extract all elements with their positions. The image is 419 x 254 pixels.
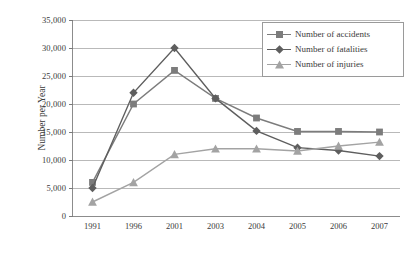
series-line <box>93 70 380 182</box>
x-axis-line <box>72 216 400 217</box>
x-axis-tick-label: 2007 <box>371 221 388 231</box>
legend-marker-square <box>267 29 291 41</box>
legend-label-injuries: Number of injuries <box>295 60 363 69</box>
legend-marker-diamond <box>267 44 291 56</box>
y-axis-tick-label: 30,000 <box>42 43 66 53</box>
y-axis-tick-mark <box>69 160 73 161</box>
legend-label-fatalities: Number of fatalities <box>295 45 367 54</box>
data-point-marker <box>294 128 301 135</box>
y-axis-tick-mark <box>69 188 73 189</box>
data-point-marker <box>376 129 383 136</box>
line-chart: 05,00010,00015,00020,00025,00030,00035,0… <box>0 0 419 254</box>
y-axis-line <box>72 20 73 216</box>
x-axis-tick-label: 2005 <box>289 221 306 231</box>
y-axis-tick-mark <box>69 216 73 217</box>
legend-label-accidents: Number of accidents <box>295 30 370 39</box>
y-axis-tick-label: 35,000 <box>42 15 66 25</box>
y-axis-tick-mark <box>69 48 73 49</box>
x-axis-tick-label: 2003 <box>207 221 224 231</box>
data-point-marker <box>171 67 178 74</box>
y-axis-title: Number per Year <box>37 58 47 178</box>
y-axis-tick-mark <box>69 20 73 21</box>
data-point-marker <box>335 128 342 135</box>
legend-item-accidents: Number of accidents <box>267 27 398 42</box>
x-axis-tick-label: 2006 <box>330 221 347 231</box>
chart-legend: Number of accidents Number of fatalities… <box>262 22 404 77</box>
data-point-marker <box>130 101 137 108</box>
legend-marker-triangle <box>267 59 291 71</box>
x-axis-tick-label: 2004 <box>248 221 265 231</box>
y-axis-tick-label: 5,000 <box>46 183 66 193</box>
x-axis-tick-label: 2001 <box>166 221 183 231</box>
y-axis-tick-mark <box>69 76 73 77</box>
data-point-marker <box>375 152 383 160</box>
x-axis-tick-label: 1996 <box>125 221 142 231</box>
y-axis-tick-mark <box>69 104 73 105</box>
y-axis-tick-label: 0 <box>62 211 66 221</box>
data-point-marker <box>129 178 138 186</box>
y-axis-tick-mark <box>69 132 73 133</box>
data-point-marker <box>253 115 260 122</box>
legend-item-injuries: Number of injuries <box>267 57 398 72</box>
y-axis-title-wrap: Number per Year <box>18 20 38 216</box>
legend-item-fatalities: Number of fatalities <box>267 42 398 57</box>
x-axis-tick-label: 1991 <box>84 221 101 231</box>
data-point-marker <box>88 198 97 206</box>
